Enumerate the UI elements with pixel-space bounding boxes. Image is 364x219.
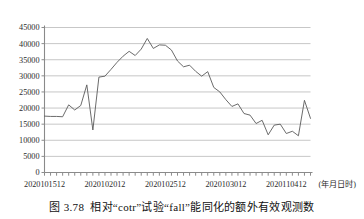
x-axis-tick-labels: 2020101512202010201220201025122020103012… <box>24 180 307 189</box>
y-axis-tick-label: 35000 <box>19 56 39 65</box>
y-axis-tick-label: 10000 <box>19 136 39 145</box>
figure-caption-text: 相对“cotr”试验“fall”能同化的额外有效观测数 <box>90 201 314 213</box>
y-axis-tick-label: 15000 <box>19 120 39 129</box>
x-axis-tick-label: 2020101512 <box>24 180 65 189</box>
y-axis-tick-labels: 0500010000150002000025000300003500040000… <box>19 23 39 177</box>
y-axis-tick-label: 30000 <box>19 72 39 81</box>
figure-caption-number: 图 3.78 <box>49 201 84 213</box>
x-axis-tick-label: 2020110412 <box>266 180 307 189</box>
figure-container: 0500010000150002000025000300003500040000… <box>0 0 364 219</box>
x-axis-tick-label: 2020103012 <box>205 180 246 189</box>
y-axis-tick-label: 45000 <box>19 23 39 32</box>
x-axis-unit-label: (年月日时) <box>319 179 357 189</box>
y-axis-tick-label: 40000 <box>19 40 39 49</box>
y-axis-tick-label: 20000 <box>19 104 39 113</box>
y-axis-tick-label: 25000 <box>19 88 39 97</box>
x-axis-tick-label: 2020102512 <box>145 180 186 189</box>
y-axis-tick-label: 5000 <box>23 152 39 161</box>
data-series-fall <box>45 38 311 135</box>
y-axis-tick-label: 0 <box>35 168 39 177</box>
x-axis-tick-label: 2020102012 <box>84 180 125 189</box>
line-chart: 0500010000150002000025000300003500040000… <box>0 0 364 219</box>
figure-caption: 图 3.78相对“cotr”试验“fall”能同化的额外有效观测数 <box>0 198 364 214</box>
